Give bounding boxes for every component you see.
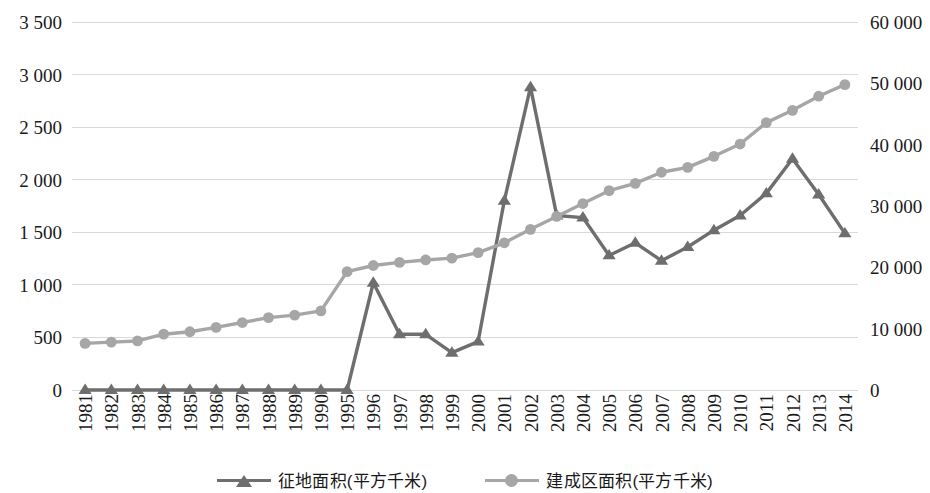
circle-marker bbox=[473, 247, 484, 258]
x-tick-text: 2014 bbox=[835, 394, 854, 432]
series-zhengdi bbox=[79, 81, 852, 394]
series-line bbox=[85, 85, 845, 344]
x-tick-text: 1990 bbox=[311, 394, 330, 432]
circle-marker bbox=[342, 266, 353, 277]
circle-marker bbox=[656, 167, 667, 178]
circle-marker bbox=[158, 329, 169, 340]
circle-marker bbox=[840, 79, 851, 90]
circle-marker bbox=[578, 198, 589, 209]
x-tick-text: 2012 bbox=[783, 394, 802, 432]
circle-marker bbox=[237, 317, 248, 328]
circle-marker bbox=[132, 336, 143, 347]
x-tick-text: 1986 bbox=[207, 394, 226, 432]
circle-marker bbox=[316, 305, 327, 316]
legend-swatch bbox=[485, 472, 539, 488]
left-y-tick-text: 500 bbox=[34, 328, 63, 347]
right-y-tick-text: 20 000 bbox=[870, 258, 922, 277]
left-y-tick-text: 3 500 bbox=[19, 13, 62, 32]
triangle-marker bbox=[629, 236, 642, 246]
circle-marker bbox=[394, 257, 405, 268]
right-y-tick-text: 10 000 bbox=[870, 319, 922, 338]
circle-marker bbox=[289, 310, 300, 321]
circle-marker bbox=[106, 337, 117, 348]
left-y-tick-text: 2 000 bbox=[19, 170, 62, 189]
legend-label: 建成区面积(平方千米) bbox=[546, 467, 713, 492]
plot-area bbox=[72, 22, 858, 390]
x-tick-text: 2007 bbox=[652, 394, 671, 432]
circle-marker bbox=[447, 253, 458, 264]
circle-marker bbox=[630, 178, 641, 189]
left-y-tick-text: 1 500 bbox=[19, 223, 62, 242]
x-tick-text: 2004 bbox=[573, 394, 592, 432]
right-y-tick-text: 0 bbox=[870, 381, 880, 400]
x-tick-text: 1981 bbox=[76, 394, 95, 432]
circle-marker bbox=[735, 139, 746, 150]
circle-marker bbox=[525, 224, 536, 235]
left-y-tick-text: 2 500 bbox=[19, 118, 62, 137]
x-axis: 1981198219831984198519861987198819891990… bbox=[72, 394, 858, 460]
x-tick-text: 1997 bbox=[390, 394, 409, 432]
triangle-marker bbox=[786, 152, 799, 162]
legend-label: 征地面积(平方千米) bbox=[278, 467, 427, 492]
right-y-axis: 010 00020 00030 00040 00050 00060 000 bbox=[864, 22, 928, 390]
plot-svg bbox=[72, 22, 858, 390]
chart-legend: 征地面积(平方千米)建成区面积(平方千米) bbox=[0, 466, 930, 493]
circle-marker bbox=[787, 105, 798, 116]
triangle-marker bbox=[236, 475, 252, 487]
x-tick-text: 2013 bbox=[809, 394, 828, 432]
circle-marker bbox=[499, 237, 510, 248]
right-y-tick-text: 60 000 bbox=[870, 13, 922, 32]
x-tick-text: 1998 bbox=[416, 394, 435, 432]
circle-marker bbox=[813, 91, 824, 102]
x-tick-text: 2008 bbox=[678, 394, 697, 432]
x-tick-text: 1988 bbox=[259, 394, 278, 432]
circle-marker bbox=[185, 326, 196, 337]
right-y-tick-text: 30 000 bbox=[870, 197, 922, 216]
circle-marker bbox=[551, 211, 562, 222]
x-tick-text: 2003 bbox=[547, 394, 566, 432]
left-y-tick-text: 0 bbox=[53, 381, 63, 400]
circle-marker bbox=[263, 312, 274, 323]
circle-marker bbox=[368, 260, 379, 271]
legend-swatch bbox=[217, 472, 271, 488]
circle-marker bbox=[505, 474, 518, 487]
legend-item-zhengdi[interactable]: 征地面积(平方千米) bbox=[217, 467, 427, 492]
x-tick-text: 2002 bbox=[521, 394, 540, 432]
circle-marker bbox=[211, 322, 222, 333]
triangle-marker bbox=[367, 276, 380, 286]
x-tick-text: 1982 bbox=[102, 394, 121, 432]
triangle-marker bbox=[498, 194, 511, 204]
circle-marker bbox=[682, 162, 693, 173]
x-tick-text: 1999 bbox=[442, 394, 461, 432]
x-tick-text: 1984 bbox=[154, 394, 173, 432]
circle-marker bbox=[80, 338, 91, 349]
circle-marker bbox=[420, 255, 431, 266]
series-jianchengqu bbox=[80, 79, 851, 349]
x-tick-text: 2009 bbox=[704, 394, 723, 432]
x-tick-text: 2011 bbox=[757, 394, 776, 431]
triangle-marker bbox=[524, 81, 537, 91]
x-tick-text: 2006 bbox=[626, 394, 645, 432]
x-tick-text: 1996 bbox=[364, 394, 383, 432]
legend-item-jianchengqu[interactable]: 建成区面积(平方千米) bbox=[485, 467, 713, 492]
circle-marker bbox=[761, 117, 772, 128]
x-tick-text: 1987 bbox=[233, 394, 252, 432]
left-y-axis: 05001 0001 5002 0002 5003 0003 500 bbox=[2, 22, 66, 390]
x-tick-text: 1989 bbox=[285, 394, 304, 432]
x-tick-text: 2001 bbox=[495, 394, 514, 432]
x-tick-text: 1983 bbox=[128, 394, 147, 432]
x-tick-text: 2000 bbox=[469, 394, 488, 432]
x-tick-text: 2005 bbox=[600, 394, 619, 432]
left-y-tick-text: 1 000 bbox=[19, 275, 62, 294]
triangle-marker bbox=[472, 335, 485, 345]
line-chart: 05001 0001 5002 0002 5003 0003 500 010 0… bbox=[0, 0, 930, 493]
x-tick-text: 2010 bbox=[731, 394, 750, 432]
left-y-tick-text: 3 000 bbox=[19, 65, 62, 84]
right-y-tick-text: 40 000 bbox=[870, 135, 922, 154]
x-tick-text: 1995 bbox=[338, 394, 357, 432]
circle-marker bbox=[604, 185, 615, 196]
circle-marker bbox=[709, 151, 720, 162]
x-tick-text: 1985 bbox=[180, 394, 199, 432]
right-y-tick-text: 50 000 bbox=[870, 74, 922, 93]
series-line bbox=[85, 87, 845, 390]
